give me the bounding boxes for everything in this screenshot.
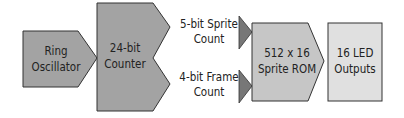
- frame-count-label-2: Count: [194, 85, 225, 99]
- sprite-rom-label-1: 512 x 16: [264, 46, 310, 60]
- frame-count-label-1: 4-bit Frame: [179, 70, 238, 84]
- led-outputs-label-1: 16 LED: [337, 46, 374, 60]
- counter-label-1: 24-bit: [110, 41, 140, 55]
- ring-oscillator-label-2: Oscillator: [32, 60, 82, 74]
- sprite-count-label-1: 5-bit Sprite: [180, 17, 238, 31]
- ring-oscillator-label-1: Ring: [44, 44, 67, 58]
- sprite-count-label-2: Count: [194, 32, 225, 46]
- counter-label-2: Counter: [104, 57, 146, 71]
- ring-oscillator-block: [23, 31, 97, 87]
- frame-count-arrow-icon: [239, 70, 252, 103]
- block-diagram: Ring Oscillator 24-bit Counter 5-bit Spr…: [0, 0, 404, 118]
- led-outputs-label-2: Outputs: [334, 62, 375, 76]
- sprite-count-arrow-icon: [239, 16, 252, 49]
- sprite-rom-label-2: Sprite ROM: [258, 62, 316, 76]
